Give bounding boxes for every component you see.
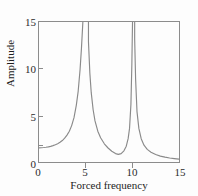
x-axis-title: Forced frequency — [38, 180, 180, 191]
chart-screenshot: 15 10 5 0 0 5 10 15 Forced frequency Amp… — [0, 0, 198, 196]
y-axis-title: Amplitude — [5, 24, 16, 104]
x-tick-label-10: 10 — [119, 167, 145, 178]
x-tick-label-5: 5 — [72, 167, 98, 178]
y-tick-label-5: 5 — [8, 112, 36, 123]
x-tick-label-0: 0 — [25, 167, 51, 178]
amplitude-response-curve — [39, 22, 179, 162]
curve-stroke — [39, 22, 179, 159]
plot-area — [38, 21, 180, 163]
x-tick-label-15: 15 — [167, 167, 193, 178]
